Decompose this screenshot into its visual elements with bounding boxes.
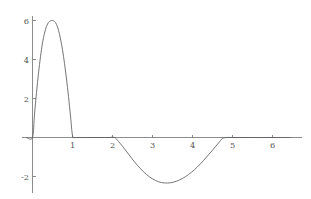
data-curve-series-0 [27,20,291,183]
y-axis-ticks [33,21,36,177]
x-tick-label-2: 2 [110,140,115,150]
y-tick-label-6: 6 [24,16,29,26]
x-tick-label-6: 6 [270,140,275,150]
plot-canvas: 1 2 3 4 5 6 6 4 2 -2 [0,0,311,199]
chart-figure: 1 2 3 4 5 6 6 4 2 -2 [0,0,311,199]
x-tick-label-3: 3 [150,140,155,150]
y-tick-label-minus-2: -2 [21,172,29,182]
y-tick-label-4: 4 [24,55,29,65]
x-tick-label-4: 4 [190,140,195,150]
x-tick-label-5: 5 [230,140,235,150]
y-tick-label-2: 2 [24,94,29,104]
x-axis-ticks [73,135,273,138]
x-tick-labels: 1 2 3 4 5 6 [70,140,275,150]
x-tick-label-1: 1 [70,140,75,150]
y-tick-labels: 6 4 2 -2 [21,16,29,182]
